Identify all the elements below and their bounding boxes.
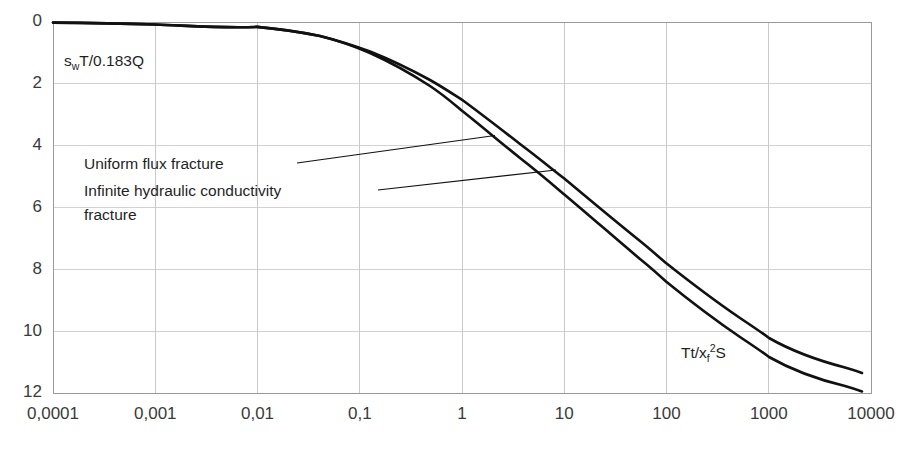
annotation-leader-lines [297,136,556,191]
chart-svg: 0 2 4 6 8 10 12 0,0001 0,001 0,01 0,1 1 … [0,0,909,461]
y-tick-label: 10 [23,321,42,340]
y-tick-label: 8 [33,259,42,278]
y-tick-label: 2 [33,73,42,92]
annotation-infinite-hydraulic-conductivity-line2: fracture [84,206,137,223]
leader-line-uniform-flux-fracture [297,136,495,164]
y-tick-label: 6 [33,197,42,216]
x-tick-label: 100 [652,404,680,423]
leader-line-infinite-hydraulic-conductivity-fracture [378,170,556,190]
annotation-uniform-flux-fracture: Uniform flux fracture [84,155,224,172]
y-axis-label-post: T/0.183Q [79,52,144,69]
y-axis-tick-labels: 0 2 4 6 8 10 12 [23,11,42,401]
x-axis-tick-labels: 0,0001 0,001 0,01 0,1 1 10 100 1000 1000… [27,404,895,423]
x-tick-label: 0,1 [348,404,372,423]
x-axis-label-post: S [716,344,726,361]
x-tick-label: 1 [457,404,466,423]
x-axis-label: Tt/xf2S [681,342,726,364]
annotation-labels: Uniform flux fracture Infinite hydraulic… [84,155,282,223]
x-tick-label: 0,0001 [27,404,79,423]
x-tick-label: 0,001 [134,404,177,423]
x-axis-label-pre: Tt/x [681,344,707,361]
x-tick-label: 10 [555,404,574,423]
y-tick-label: 0 [33,11,42,30]
y-axis-label: swT/0.183Q [64,52,144,72]
y-tick-label: 4 [33,135,42,154]
y-tick-label: 12 [23,382,42,401]
x-tick-label: 0,01 [241,404,274,423]
annotation-infinite-hydraulic-conductivity-line1: Infinite hydraulic conductivity [84,182,282,199]
x-tick-label: 1000 [750,404,788,423]
chart-container: 0 2 4 6 8 10 12 0,0001 0,001 0,01 0,1 1 … [0,0,909,461]
x-tick-label: 10000 [847,404,894,423]
